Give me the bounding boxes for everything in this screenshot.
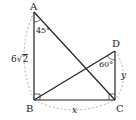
point-label-c: C bbox=[116, 103, 124, 114]
angle-label-a: 45° bbox=[36, 26, 50, 35]
angle-label-d: 60° bbox=[99, 60, 113, 69]
length-ab-radicand: 2 bbox=[22, 54, 28, 64]
point-label-b: B bbox=[26, 103, 33, 114]
segment-bd bbox=[34, 51, 115, 100]
length-label-dc: y bbox=[120, 70, 127, 80]
geometry-diagram: A B C D 45° 60° 6√2 x y bbox=[0, 0, 136, 120]
length-label-ab: 6√2 bbox=[11, 54, 28, 64]
point-label-a: A bbox=[29, 1, 38, 12]
length-label-bc: x bbox=[72, 105, 77, 115]
angle-arc-a bbox=[34, 19, 41, 22]
point-label-d: D bbox=[112, 38, 120, 49]
